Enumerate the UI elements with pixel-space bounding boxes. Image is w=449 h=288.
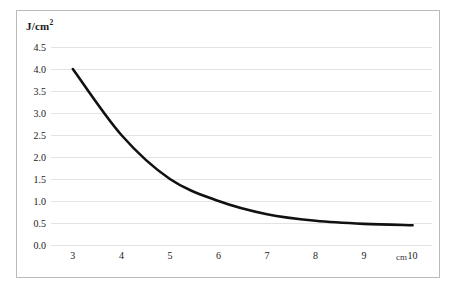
y-axis-tick-labels: 0.00.51.01.52.02.53.03.54.04.5 [16, 47, 46, 245]
x-axis-tick-label: 10 [408, 250, 418, 261]
gridline [51, 135, 432, 136]
gridline [51, 245, 432, 246]
chart-figure: J/cm2 0.00.51.01.52.02.53.03.54.04.5 345… [0, 0, 449, 288]
y-axis-tick-label: 0.5 [34, 218, 47, 229]
gridline [51, 223, 432, 224]
x-axis-unit-label: cm [396, 252, 407, 262]
gridline [51, 69, 432, 70]
y-axis-tick-label: 4.0 [34, 64, 47, 75]
x-axis-tick-label: 5 [167, 250, 172, 261]
y-axis-tick-label: 2.5 [34, 130, 47, 141]
y-axis-tick-label: 3.5 [34, 86, 47, 97]
y-axis-tick-label: 1.5 [34, 174, 47, 185]
gridline [51, 91, 432, 92]
x-axis-tick-label: 4 [119, 250, 124, 261]
y-axis-tick-label: 3.0 [34, 108, 47, 119]
gridline [51, 201, 432, 202]
y-axis-tick-label: 1.0 [34, 196, 47, 207]
x-axis-tick-label: 7 [264, 250, 269, 261]
y-axis-unit-superscript: 2 [49, 18, 53, 27]
gridline [51, 157, 432, 158]
gridline [51, 179, 432, 180]
x-axis-tick-label: 3 [70, 250, 75, 261]
gridline [51, 47, 432, 48]
x-axis-tick-label: 8 [313, 250, 318, 261]
x-axis-tick-label: 6 [216, 250, 221, 261]
y-axis-unit-label: J/cm2 [26, 20, 53, 32]
y-axis-tick-label: 0.0 [34, 240, 47, 251]
y-axis-tick-label: 4.5 [34, 42, 47, 53]
x-axis-tick-labels: 345678910 [51, 250, 432, 266]
gridline [51, 113, 432, 114]
x-axis-tick-label: 9 [362, 250, 367, 261]
y-axis-tick-label: 2.0 [34, 152, 47, 163]
plot-area [51, 47, 432, 245]
y-axis-unit-text: J/cm [26, 20, 49, 32]
